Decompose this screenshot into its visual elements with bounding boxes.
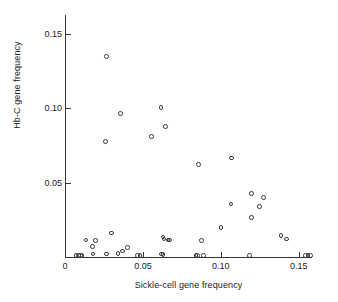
data-point: [162, 237, 167, 242]
y-tick-label: 0.05: [44, 178, 62, 188]
data-point: [161, 235, 166, 240]
y-axis-title: Hb-C gene frequency: [12, 5, 22, 165]
data-point: [249, 215, 254, 220]
data-point: [149, 134, 154, 139]
x-tick-mark: [143, 252, 144, 257]
data-point: [257, 204, 262, 209]
y-tick-mark: [66, 183, 71, 184]
x-axis-line: [65, 257, 312, 258]
data-point: [249, 191, 254, 196]
x-axis-title: Sickle-cell gene frequency: [65, 280, 312, 290]
y-tick-label: 0.10: [44, 103, 62, 113]
y-tick-label: 0.15: [44, 29, 62, 39]
data-point: [93, 238, 98, 243]
x-tick-label: 0.15: [290, 261, 308, 271]
data-point: [159, 105, 164, 110]
data-point: [219, 225, 224, 230]
data-point: [261, 195, 266, 200]
data-point: [163, 124, 168, 129]
y-tick-mark: [66, 108, 71, 109]
data-point: [109, 231, 114, 236]
data-point: [118, 111, 123, 116]
data-point: [196, 162, 201, 167]
x-tick-label: 0.05: [134, 261, 152, 271]
x-tick-mark: [221, 252, 222, 257]
data-point: [284, 237, 289, 242]
data-point: [166, 238, 171, 243]
data-point: [159, 252, 164, 257]
y-tick-mark: [66, 34, 71, 35]
data-point: [84, 238, 89, 243]
data-point: [167, 238, 172, 243]
data-point: [125, 245, 130, 250]
data-point: [103, 139, 108, 144]
data-point: [199, 238, 204, 243]
x-tick-mark: [299, 252, 300, 257]
data-point: [104, 54, 109, 59]
scatter-plot-figure: 00.050.100.15 0.050.100.15 Sickle-cell g…: [0, 0, 338, 302]
data-point: [116, 251, 121, 256]
x-tick-mark: [65, 252, 66, 257]
data-point: [120, 249, 125, 254]
data-point: [104, 252, 109, 257]
x-tick-label: 0.10: [212, 261, 230, 271]
x-tick-label: 0: [62, 261, 67, 271]
y-axis-line: [65, 15, 66, 258]
data-point: [279, 233, 284, 238]
data-point: [90, 244, 95, 249]
data-point: [229, 202, 234, 207]
data-point: [91, 252, 96, 257]
data-point: [229, 156, 234, 161]
